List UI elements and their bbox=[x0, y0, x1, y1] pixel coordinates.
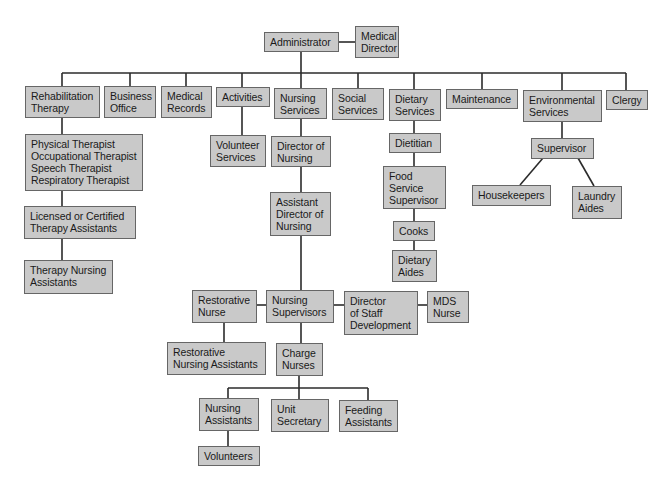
node-dietary-aides: Dietary Aides bbox=[392, 250, 437, 282]
node-feeding-assistants: Feeding Assistants bbox=[339, 400, 398, 432]
node-medical-records: Medical Records bbox=[161, 86, 212, 118]
node-director-staff-development: Director of Staff Development bbox=[344, 291, 418, 335]
node-charge-nurses: Charge Nurses bbox=[276, 343, 323, 376]
node-administrator: Administrator bbox=[264, 32, 339, 52]
node-housekeepers: Housekeepers bbox=[472, 185, 551, 206]
node-business-office: Business Office bbox=[104, 86, 156, 118]
node-volunteer-services: Volunteer Services bbox=[210, 135, 266, 167]
node-nursing-services: Nursing Services bbox=[274, 88, 327, 119]
node-licensed-therapy-assistants: Licensed or Certified Therapy Assistants bbox=[24, 206, 136, 239]
connector-lines bbox=[0, 0, 665, 480]
node-social-services: Social Services bbox=[332, 88, 384, 120]
node-medical-director: Medical Director bbox=[355, 26, 399, 58]
node-dietitian: Dietitian bbox=[389, 133, 441, 153]
node-restorative-nurse: Restorative Nurse bbox=[192, 290, 257, 323]
node-supervisor: Supervisor bbox=[531, 138, 594, 159]
node-dietary-services: Dietary Services bbox=[389, 89, 441, 121]
node-volunteers: Volunteers bbox=[198, 446, 260, 466]
node-director-of-nursing: Director of Nursing bbox=[271, 136, 331, 167]
node-restorative-nursing-assistants: Restorative Nursing Assistants bbox=[167, 342, 266, 375]
node-therapists: Physical Therapist Occupational Therapis… bbox=[25, 134, 143, 191]
node-maintenance: Maintenance bbox=[446, 89, 518, 109]
node-cooks: Cooks bbox=[393, 221, 435, 241]
node-rehabilitation-therapy: Rehabilitation Therapy bbox=[25, 86, 100, 118]
node-unit-secretary: Unit Secretary bbox=[271, 399, 329, 432]
node-activities: Activities bbox=[216, 87, 270, 107]
node-food-service-supervisor: Food Service Supervisor bbox=[383, 166, 446, 209]
node-nursing-assistants: Nursing Assistants bbox=[199, 398, 259, 431]
org-chart-canvas: Administrator Medical Director Rehabilit… bbox=[0, 0, 665, 480]
node-mds-nurse: MDS Nurse bbox=[427, 291, 469, 323]
node-clergy: Clergy bbox=[606, 90, 648, 110]
node-assistant-director-of-nursing: Assistant Director of Nursing bbox=[270, 192, 331, 236]
node-laundry-aides: Laundry Aides bbox=[572, 186, 622, 219]
node-therapy-nursing-assistants: Therapy Nursing Assistants bbox=[24, 260, 113, 294]
node-environmental-services: Environmental Services bbox=[523, 90, 602, 122]
node-nursing-supervisors: Nursing Supervisors bbox=[266, 290, 334, 323]
